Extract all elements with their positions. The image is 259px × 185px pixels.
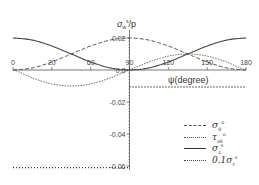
dotted-line-swatch [184,160,206,161]
y-tick-label: -0.04 [110,131,126,138]
legend-item-sigma-theta: σθo [184,120,256,132]
y-tick-label: -0.02 [110,99,126,106]
y-tick-label: 0.0 [116,67,126,74]
x-tick-label: 20 [48,59,56,66]
solid-line-swatch [184,148,206,149]
x-tick-label: 0 [11,59,15,66]
legend: σθo τzθo σzs 0.1σrs [184,120,256,166]
y-tick-label: 0.02 [112,35,126,42]
x-tick-label: 150 [201,59,213,66]
fine-dotted-line-swatch [184,137,206,138]
legend-item-0.1-sigma-r: 0.1σrs [184,155,256,167]
dashed-line-swatch [184,125,206,126]
x-tick-label: 180 [240,59,252,66]
y-axis-label: σws/p [117,18,136,30]
legend-item-tau-ztheta: τzθo [184,132,256,144]
legend-item-sigma-z: σzs [184,143,256,155]
legend-label: 0.1σrs [212,154,237,167]
x-axis-label: ψ(degree) [168,75,208,85]
x-tick-label: 60 [87,59,95,66]
y-tick-label: -0.06 [110,163,126,170]
x-tick-label: 90 [126,59,134,66]
x-tick-label: 120 [162,59,174,66]
